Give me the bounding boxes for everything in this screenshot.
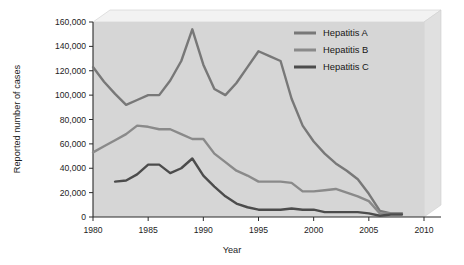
y-tick-label: 40,000 — [60, 163, 87, 173]
x-tick-label: 1990 — [194, 225, 213, 235]
chart-legend: Hepatitis AHepatitis BHepatitis C — [294, 27, 369, 72]
line-chart: 020,00040,00060,00080,000100,000120,0001… — [0, 0, 464, 265]
x-tick-label: 1980 — [83, 225, 102, 235]
legend-label-hepatitis-a: Hepatitis A — [323, 27, 369, 38]
plot-bevel-right — [424, 10, 441, 217]
y-tick-label: 140,000 — [55, 41, 86, 51]
y-axis-ticks: 020,00040,00060,00080,000100,000120,0001… — [55, 17, 93, 222]
x-axis-title: Year — [223, 245, 242, 255]
y-tick-label: 80,000 — [60, 115, 87, 125]
legend-label-hepatitis-c: Hepatitis C — [323, 61, 369, 72]
x-tick-label: 1995 — [249, 225, 268, 235]
x-tick-label: 2005 — [359, 225, 378, 235]
y-tick-label: 100,000 — [55, 90, 86, 100]
x-axis-ticks: 1980198519901995200020052010 — [83, 217, 433, 235]
x-tick-label: 2010 — [414, 225, 433, 235]
x-tick-label: 2000 — [304, 225, 323, 235]
y-tick-label: 60,000 — [60, 139, 87, 149]
x-tick-label: 1985 — [139, 225, 158, 235]
y-tick-label: 160,000 — [55, 17, 86, 27]
legend-label-hepatitis-b: Hepatitis B — [323, 44, 368, 55]
y-tick-label: 20,000 — [60, 188, 87, 198]
y-tick-label: 120,000 — [55, 66, 86, 76]
chart-figure: 020,00040,00060,00080,000100,000120,0001… — [0, 0, 464, 265]
y-tick-label: 0 — [81, 212, 86, 222]
y-axis-title: Reported number of cases — [12, 64, 22, 173]
plot-bevel-top — [93, 10, 441, 22]
